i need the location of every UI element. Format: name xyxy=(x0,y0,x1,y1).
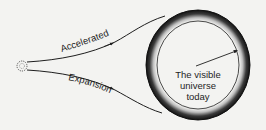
accelerated-label: Accelerated xyxy=(59,27,110,54)
universe-expansion-diagram: Accelerated Expansion The visible univer… xyxy=(0,0,266,130)
lower-expansion-curve xyxy=(27,70,162,113)
circle-label-line3: today xyxy=(186,91,209,102)
expansion-label: Expansion xyxy=(68,71,114,95)
circle-label-line1: The visible xyxy=(175,69,220,80)
origin-dot-icon xyxy=(17,61,27,71)
circle-label-line2: universe xyxy=(180,80,216,91)
upper-arrowhead-icon xyxy=(104,44,112,47)
